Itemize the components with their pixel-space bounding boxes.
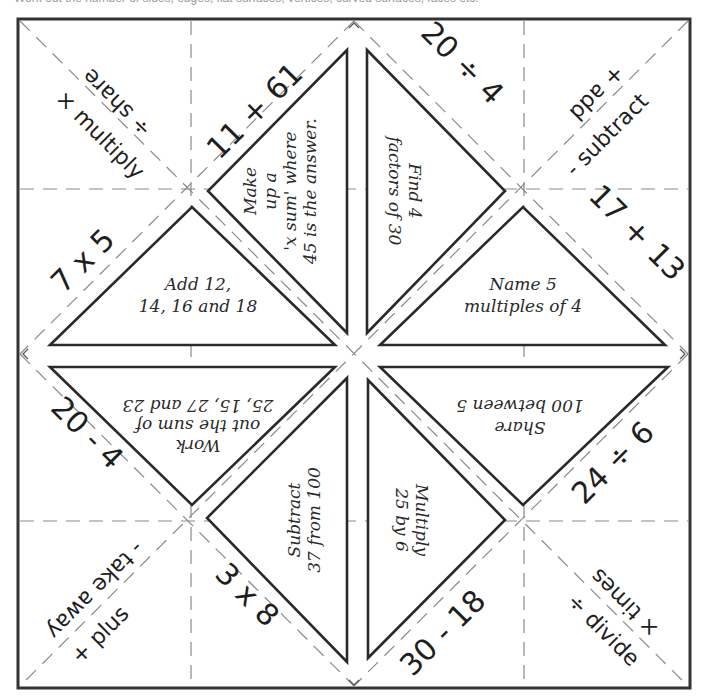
svg-text:Name 5: Name 5 bbox=[488, 274, 556, 294]
svg-text:25, 15, 27 and 23: 25, 15, 27 and 23 bbox=[123, 396, 275, 416]
svg-text:Find 4: Find 4 bbox=[405, 162, 425, 218]
svg-text:14, 16 and 18: 14, 16 and 18 bbox=[139, 296, 258, 316]
svg-text:25 by 6: 25 by 6 bbox=[392, 487, 412, 552]
task-bottom-left: Subtract 37 from 100 bbox=[284, 467, 324, 573]
svg-text:Share: Share bbox=[495, 418, 546, 438]
svg-text:Work: Work bbox=[176, 436, 221, 456]
svg-text:37 from 100: 37 from 100 bbox=[304, 467, 324, 573]
svg-text:Add 12,: Add 12, bbox=[163, 274, 231, 294]
svg-text:Multiply: Multiply bbox=[412, 483, 432, 556]
task-bottom-right: Multiply 25 by 6 bbox=[392, 483, 432, 556]
svg-text:'x sum' where: 'x sum' where bbox=[280, 131, 300, 250]
svg-text:out the sum of: out the sum of bbox=[133, 416, 260, 436]
svg-text:up a: up a bbox=[260, 172, 280, 209]
svg-text:multiples of 4: multiples of 4 bbox=[464, 296, 582, 316]
fortune-teller-sheet: × multiply ÷ share - subtract + add + pl… bbox=[0, 0, 707, 700]
svg-text:Subtract: Subtract bbox=[284, 482, 304, 557]
svg-text:factors of 30: factors of 30 bbox=[385, 135, 405, 246]
svg-text:100 between 5: 100 between 5 bbox=[456, 396, 583, 416]
svg-text:45 is the answer.: 45 is the answer. bbox=[300, 118, 320, 265]
svg-text:Make: Make bbox=[240, 167, 260, 216]
